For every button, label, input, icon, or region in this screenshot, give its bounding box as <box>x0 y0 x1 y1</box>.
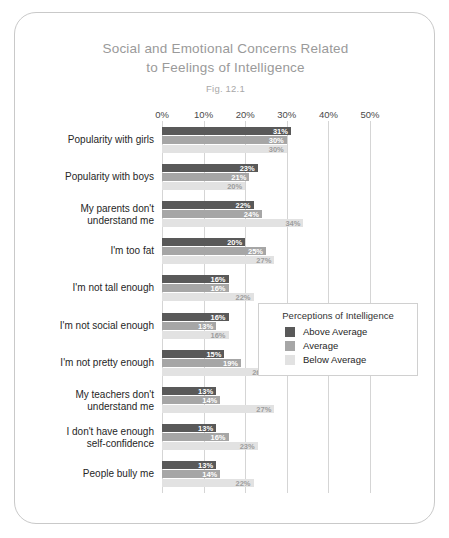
bar-value-label: 20% <box>227 238 242 247</box>
bar-group: My parents don't understand me22%24%34% <box>162 201 370 227</box>
bar-value-label: 34% <box>285 219 300 228</box>
bar: 23% <box>162 442 258 450</box>
category-label: People bully me <box>83 469 154 481</box>
figure-frame: Social and Emotional Concerns Related to… <box>14 12 435 524</box>
bar-group: I don't have enough self-confidence13%16… <box>162 424 370 450</box>
bar-value-label: 20% <box>227 181 242 190</box>
bar-value-label: 30% <box>269 144 284 153</box>
legend-label: Above Average <box>303 326 367 337</box>
bar: 16% <box>162 284 229 292</box>
legend-swatch <box>285 355 295 365</box>
category-label: My teachers don't understand me <box>75 389 154 412</box>
legend-swatch <box>285 327 295 337</box>
bar-value-label: 13% <box>198 387 213 396</box>
legend-item: Below Average <box>285 354 409 365</box>
bar: 15% <box>162 350 224 358</box>
bar-value-label: 19% <box>223 358 238 367</box>
legend-label: Average <box>303 340 338 351</box>
bar: 16% <box>162 433 229 441</box>
legend-item: Above Average <box>285 326 409 337</box>
bar-group: My teachers don't understand me13%14%27% <box>162 387 370 413</box>
bar: 30% <box>162 145 287 153</box>
bar-group: Popularity with boys23%21%20% <box>162 164 370 190</box>
category-label: Popularity with boys <box>65 171 154 183</box>
category-label: I'm not tall enough <box>73 283 154 295</box>
bar: 22% <box>162 201 254 209</box>
legend-item: Average <box>285 340 409 351</box>
category-label: I don't have enough self-confidence <box>66 426 154 449</box>
bar-group: I'm too fat20%25%27% <box>162 238 370 264</box>
bar-value-label: 22% <box>236 479 251 488</box>
bar-value-label: 15% <box>206 349 221 358</box>
bar-value-label: 21% <box>231 172 246 181</box>
bar: 13% <box>162 387 216 395</box>
legend-title: Perceptions of Intelligence <box>267 310 409 321</box>
bar-value-label: 16% <box>211 433 226 442</box>
bar-group: People bully me13%14%22% <box>162 461 370 487</box>
bar-value-label: 14% <box>202 396 217 405</box>
category-label: I'm not pretty enough <box>60 357 154 369</box>
chart-legend: Perceptions of Intelligence Above Averag… <box>258 303 418 376</box>
x-tick-label: 20% <box>236 109 255 120</box>
bar-value-label: 27% <box>256 256 271 265</box>
bar: 23% <box>162 164 258 172</box>
bar: 16% <box>162 313 229 321</box>
category-label: Popularity with girls <box>68 134 154 146</box>
category-label: I'm not social enough <box>60 320 154 332</box>
bar: 14% <box>162 396 220 404</box>
bar: 31% <box>162 127 291 135</box>
category-label: I'm too fat <box>110 245 154 257</box>
bar-group: Popularity with girls31%30%30% <box>162 127 370 153</box>
bar: 34% <box>162 219 303 227</box>
chart-title-line-2: to Feelings of Intelligence <box>15 58 436 77</box>
bar: 21% <box>162 173 249 181</box>
bar: 26% <box>162 368 270 376</box>
bar-value-label: 13% <box>198 321 213 330</box>
bar-value-label: 25% <box>248 247 263 256</box>
legend-items: Above AverageAverageBelow Average <box>267 326 409 365</box>
bar-value-label: 16% <box>211 330 226 339</box>
bar-value-label: 16% <box>211 312 226 321</box>
bar-value-label: 16% <box>211 284 226 293</box>
bar-value-label: 31% <box>273 126 288 135</box>
bar: 16% <box>162 275 229 283</box>
x-tick-label: 40% <box>319 109 338 120</box>
bar: 24% <box>162 210 262 218</box>
bar: 22% <box>162 479 254 487</box>
bar: 13% <box>162 322 216 330</box>
legend-label: Below Average <box>303 354 366 365</box>
bar-value-label: 16% <box>211 275 226 284</box>
x-tick-label: 30% <box>277 109 296 120</box>
bar: 14% <box>162 470 220 478</box>
bar-value-label: 14% <box>202 470 217 479</box>
bar: 25% <box>162 247 266 255</box>
bar: 20% <box>162 182 245 190</box>
bar: 20% <box>162 238 245 246</box>
x-tick-label: 10% <box>194 109 213 120</box>
x-tick-label: 0% <box>155 109 169 120</box>
bar: 27% <box>162 256 274 264</box>
bar: 13% <box>162 461 216 469</box>
bar-value-label: 27% <box>256 405 271 414</box>
bar: 22% <box>162 293 254 301</box>
bar-value-label: 30% <box>269 135 284 144</box>
bar: 30% <box>162 136 287 144</box>
bar-value-label: 13% <box>198 461 213 470</box>
chart-title-block: Social and Emotional Concerns Related to… <box>15 39 436 94</box>
bar: 13% <box>162 424 216 432</box>
bar: 27% <box>162 405 274 413</box>
legend-swatch <box>285 341 295 351</box>
x-tick-label: 50% <box>360 109 379 120</box>
figure-number: Fig. 12.1 <box>15 83 436 94</box>
chart-title-line-1: Social and Emotional Concerns Related <box>15 39 436 58</box>
bar-value-label: 13% <box>198 424 213 433</box>
bar-value-label: 23% <box>240 442 255 451</box>
bar-value-label: 22% <box>236 293 251 302</box>
category-label: My parents don't understand me <box>80 203 154 226</box>
bar: 19% <box>162 359 241 367</box>
bar-value-label: 22% <box>236 201 251 210</box>
bar-group: I'm not tall enough16%16%22% <box>162 275 370 301</box>
bar-value-label: 24% <box>244 210 259 219</box>
bar-value-label: 23% <box>240 163 255 172</box>
bar: 16% <box>162 331 229 339</box>
